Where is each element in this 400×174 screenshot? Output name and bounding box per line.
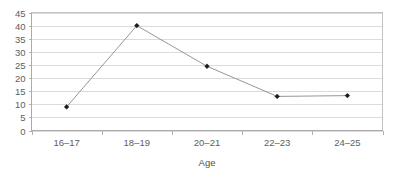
y-tick-label: 30	[15, 47, 26, 58]
y-tick-label: 15	[15, 86, 26, 97]
y-tick-label: 35	[15, 34, 26, 45]
y-tick-label: 45	[15, 8, 26, 19]
y-tick-label: 20	[15, 73, 26, 84]
y-tick-label: 25	[15, 60, 26, 71]
x-tick-label: 16–17	[53, 137, 79, 148]
y-tick-label: 0	[20, 126, 25, 137]
chart-canvas: 051015202530354045 16–1718–1920–2122–232…	[0, 0, 400, 174]
x-tick-label: 24–25	[334, 137, 360, 148]
x-tick-label: 20–21	[194, 137, 220, 148]
y-tick-label: 5	[20, 112, 25, 123]
x-axis-title: Age	[199, 157, 216, 168]
line-chart: 051015202530354045 16–1718–1920–2122–232…	[0, 0, 400, 174]
x-tick-label: 22–23	[264, 137, 290, 148]
y-tick-label: 10	[15, 99, 26, 110]
x-tick-label: 18–19	[124, 137, 150, 148]
y-tick-label: 40	[15, 21, 26, 32]
